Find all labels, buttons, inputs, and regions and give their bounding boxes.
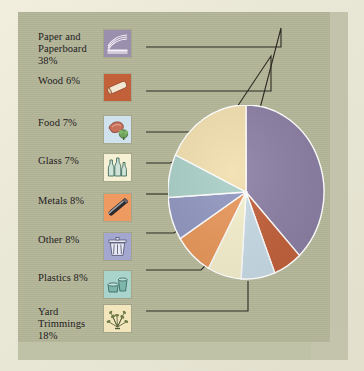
legend-item-food[interactable]: Food 7% — [38, 116, 148, 143]
pie-chart-svg — [168, 105, 328, 280]
legend-label-glass: Glass 7% — [38, 154, 104, 167]
legend-item-metals[interactable]: Metals 8% — [38, 194, 148, 221]
pie-shading — [168, 105, 324, 279]
legend-label-food: Food 7% — [38, 116, 104, 129]
legend-item-yard[interactable]: Yard Trimmings 18% — [38, 305, 148, 343]
pie-chart — [168, 105, 328, 280]
legend-label-yard: Yard Trimmings 18% — [38, 305, 104, 343]
legend-label-plastics: Plastics 8% — [38, 271, 104, 284]
food-icon — [104, 116, 131, 143]
legend-item-wood[interactable]: Wood 6% — [38, 74, 148, 101]
legend-label-wood: Wood 6% — [38, 74, 104, 87]
legend-item-other[interactable]: Other 8% — [38, 233, 148, 260]
wood-log-icon — [104, 74, 131, 101]
legend-item-plastics[interactable]: Plastics 8% — [38, 271, 148, 298]
legend-item-paper[interactable]: Paper and Paperboard 38% — [38, 30, 148, 68]
metal-pipe-icon — [104, 194, 131, 221]
paper-stack-icon — [104, 30, 131, 57]
glass-bottles-icon — [104, 154, 131, 181]
figure-root: Paper and Paperboard 38% Wood 6% — [0, 0, 364, 371]
trash-can-icon — [104, 233, 131, 260]
legend-label-paper: Paper and Paperboard 38% — [38, 30, 104, 68]
plastic-container-icon — [104, 271, 131, 298]
legend-label-metals: Metals 8% — [38, 194, 104, 207]
legend-item-glass[interactable]: Glass 7% — [38, 154, 148, 181]
yard-trimmings-icon — [104, 305, 131, 332]
legend-label-other: Other 8% — [38, 233, 104, 246]
